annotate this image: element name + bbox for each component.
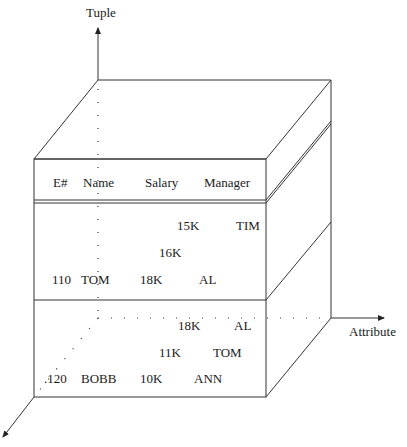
cell-enum: .120 <box>44 372 67 385</box>
depth-axis <box>3 397 34 437</box>
header-column-manager: Manager <box>204 176 250 189</box>
tuple-axis-label: Tuple <box>86 6 116 19</box>
header-column-name: Name <box>83 176 114 189</box>
cell-salary: 11K <box>159 346 181 359</box>
cell-enum: 110 <box>52 273 71 286</box>
header-column-salary: Salary <box>145 176 178 189</box>
cell-name: TOM <box>81 273 110 286</box>
cell-manager: ANN <box>194 372 222 385</box>
cell-manager: AL <box>199 273 216 286</box>
cell-name: BOBB <box>81 372 116 385</box>
cell-salary: 15K <box>177 219 199 232</box>
cell-salary: 18K <box>140 273 162 286</box>
cell-manager: TOM <box>213 346 242 359</box>
attribute-axis-label: Attribute <box>349 325 396 338</box>
cell-manager: AL <box>234 319 251 332</box>
cell-salary: 16K <box>159 246 181 259</box>
box-top-face <box>34 80 331 159</box>
cell-manager: TIM <box>236 219 260 232</box>
cell-salary: 18K <box>178 319 200 332</box>
header-column-enum: E# <box>53 176 67 189</box>
cell-salary: 10K <box>140 372 162 385</box>
